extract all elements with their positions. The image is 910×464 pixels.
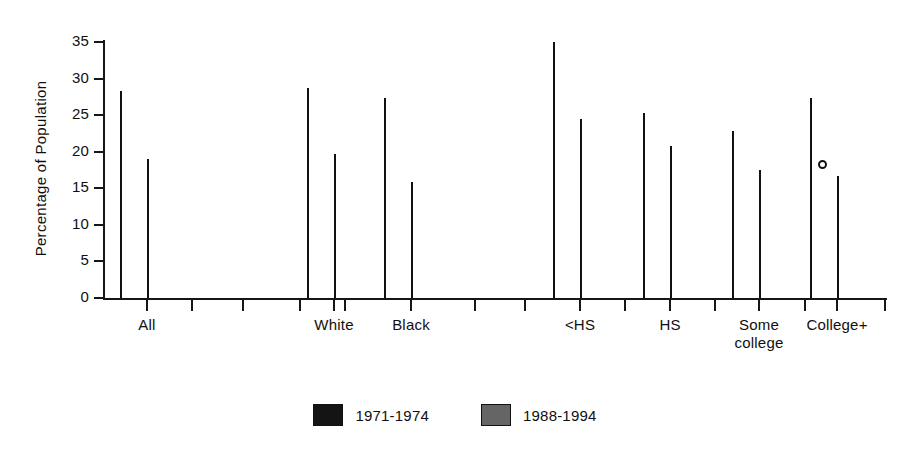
x-tick-mark <box>191 300 193 311</box>
category-label-line: Black <box>351 316 471 334</box>
x-tick-mark <box>242 300 244 311</box>
x-tick-mark <box>624 300 626 311</box>
bar <box>384 98 386 298</box>
x-tick-mark <box>474 300 476 311</box>
x-tick-mark <box>836 300 838 311</box>
bar-chart: Percentage of Population 05101520253035 … <box>0 0 910 464</box>
x-tick-mark <box>714 300 716 311</box>
category-label-college: College+ <box>777 316 897 334</box>
x-tick-mark <box>299 300 301 311</box>
x-tick-mark <box>344 300 346 311</box>
bar <box>307 88 309 298</box>
bar <box>147 159 149 298</box>
category-label-line: College+ <box>777 316 897 334</box>
bar <box>810 98 812 298</box>
legend-swatch-gray <box>481 404 511 426</box>
category-label-line: All <box>87 316 207 334</box>
x-tick-mark <box>146 300 148 311</box>
bar <box>759 170 761 298</box>
bar <box>334 154 336 298</box>
x-tick-mark <box>669 300 671 311</box>
category-label-black: Black <box>351 316 471 334</box>
bar <box>643 113 645 298</box>
x-tick-mark <box>758 300 760 311</box>
x-tick-mark <box>884 300 886 311</box>
bar <box>411 182 413 298</box>
x-tick-mark <box>579 300 581 311</box>
x-tick-mark <box>524 300 526 311</box>
category-label-all: All <box>87 316 207 334</box>
x-tick-mark <box>804 300 806 311</box>
bar <box>120 91 122 298</box>
category-label-line: college <box>699 334 819 352</box>
chart-legend: 1971-19741988-1994 <box>0 404 910 426</box>
legend-swatch-black <box>313 404 343 426</box>
scan-artifact-dot <box>818 160 827 169</box>
legend-label: 1971-1974 <box>355 407 429 424</box>
bars-layer <box>0 0 910 300</box>
legend-item[interactable]: 1988-1994 <box>481 404 597 426</box>
legend-item[interactable]: 1971-1974 <box>313 404 429 426</box>
x-tick-mark <box>333 300 335 311</box>
legend-label: 1988-1994 <box>523 407 597 424</box>
bar <box>553 42 555 298</box>
bar <box>837 176 839 298</box>
x-tick-mark <box>410 300 412 311</box>
bar <box>670 146 672 298</box>
bar <box>580 119 582 298</box>
bar <box>732 131 734 298</box>
